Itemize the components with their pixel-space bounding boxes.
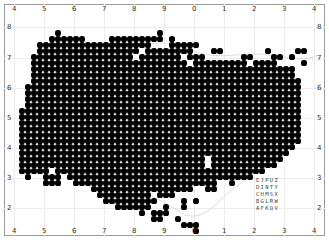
map-dot — [127, 102, 132, 107]
map-dot — [253, 168, 258, 173]
map-dot — [295, 126, 300, 131]
map-dot — [49, 156, 54, 161]
map-dot — [43, 132, 48, 137]
map-dot — [229, 150, 234, 155]
map-dot — [187, 168, 192, 173]
map-dot — [31, 150, 36, 155]
map-dot — [127, 168, 132, 173]
x-tick-bottom: 5 — [42, 228, 46, 235]
map-dot — [103, 192, 108, 197]
map-dot — [79, 60, 84, 65]
map-dot — [127, 42, 132, 47]
map-dot — [109, 96, 114, 101]
map-dot — [163, 162, 168, 167]
map-dot — [91, 168, 96, 173]
map-dot — [241, 168, 246, 173]
dot-matrix — [0, 0, 329, 243]
map-dot — [223, 96, 228, 101]
map-dot — [31, 138, 36, 143]
map-dot — [235, 114, 240, 119]
map-dot — [205, 102, 210, 107]
map-dot — [109, 48, 114, 53]
map-dot — [301, 60, 306, 65]
map-dot — [271, 102, 276, 107]
x-tick-top: 0 — [192, 6, 196, 13]
map-dot — [127, 180, 132, 185]
map-dot — [163, 138, 168, 143]
map-dot — [55, 48, 60, 53]
map-dot — [199, 180, 204, 185]
map-dot — [187, 132, 192, 137]
map-dot — [175, 156, 180, 161]
map-dot — [157, 54, 162, 59]
map-dot — [49, 54, 54, 59]
map-dot — [103, 174, 108, 179]
map-dot — [217, 156, 222, 161]
map-dot — [187, 180, 192, 185]
map-dot — [283, 150, 288, 155]
map-dot — [145, 198, 150, 203]
map-dot — [247, 108, 252, 113]
map-dot — [145, 66, 150, 71]
map-dot — [265, 90, 270, 95]
map-dot — [85, 120, 90, 125]
map-dot — [109, 36, 114, 41]
map-dot — [205, 186, 210, 191]
map-dot — [271, 90, 276, 95]
map-dot — [145, 174, 150, 179]
map-dot — [115, 138, 120, 143]
map-dot — [49, 84, 54, 89]
map-dot — [175, 174, 180, 179]
map-dot — [115, 162, 120, 167]
map-dot — [217, 144, 222, 149]
map-dot — [115, 108, 120, 113]
map-dot — [253, 144, 258, 149]
map-dot — [139, 102, 144, 107]
map-dot — [127, 36, 132, 41]
map-dot — [103, 132, 108, 137]
map-dot — [67, 102, 72, 107]
map-dot — [211, 186, 216, 191]
map-dot — [181, 126, 186, 131]
map-dot — [277, 138, 282, 143]
map-dot — [109, 126, 114, 131]
map-dot — [205, 132, 210, 137]
map-dot — [211, 84, 216, 89]
map-dot — [253, 114, 258, 119]
map-dot — [139, 138, 144, 143]
map-dot — [103, 126, 108, 131]
map-dot — [229, 132, 234, 137]
map-dot — [175, 54, 180, 59]
map-dot — [121, 96, 126, 101]
map-dot — [235, 150, 240, 155]
map-dot — [37, 102, 42, 107]
map-dot — [43, 108, 48, 113]
y-tick-right: 2 — [317, 205, 321, 212]
map-dot — [175, 90, 180, 95]
map-dot — [61, 42, 66, 47]
map-dot — [235, 144, 240, 149]
map-dot — [19, 120, 24, 125]
map-dot — [193, 126, 198, 131]
map-dot — [163, 192, 168, 197]
map-dot — [43, 162, 48, 167]
map-dot — [121, 66, 126, 71]
map-dot — [85, 102, 90, 107]
map-dot — [79, 174, 84, 179]
map-dot — [163, 72, 168, 77]
map-dot — [31, 132, 36, 137]
map-dot — [181, 180, 186, 185]
map-dot — [73, 102, 78, 107]
y-tick-left: 3 — [7, 175, 11, 182]
map-dot — [25, 108, 30, 113]
map-dot — [289, 132, 294, 137]
map-dot — [73, 138, 78, 143]
map-dot — [25, 150, 30, 155]
map-dot — [163, 150, 168, 155]
map-dot — [271, 156, 276, 161]
map-dot — [55, 60, 60, 65]
map-dot — [73, 150, 78, 155]
map-dot — [31, 120, 36, 125]
x-tick-top: 1 — [222, 6, 226, 13]
map-dot — [205, 96, 210, 101]
